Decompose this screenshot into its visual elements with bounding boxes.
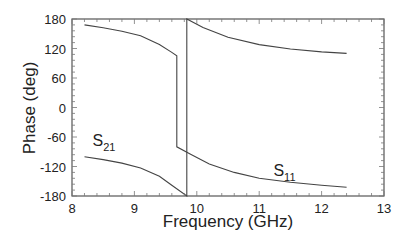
curve-s11 xyxy=(85,25,347,187)
y-tick-label: -60 xyxy=(47,130,66,145)
series-label-s21: S21 xyxy=(92,132,115,153)
y-tick-label: 180 xyxy=(44,12,66,27)
x-tick-label: 13 xyxy=(377,201,391,216)
x-tick-label: 9 xyxy=(131,201,138,216)
axis-ticks: 8910111213180120600-60-120-180 xyxy=(40,12,391,216)
data-curves xyxy=(85,19,347,196)
plot-area xyxy=(72,19,384,196)
phase-chart: 8910111213180120600-60-120-180 Frequency… xyxy=(0,0,410,243)
x-tick-label: 8 xyxy=(68,201,75,216)
y-tick-label: 60 xyxy=(52,71,66,86)
x-axis-title: Frequency (GHz) xyxy=(163,212,293,231)
y-axis-title: Phase (deg) xyxy=(20,62,39,155)
y-tick-label: -120 xyxy=(40,160,66,175)
x-tick-label: 12 xyxy=(314,201,328,216)
plot-frame xyxy=(72,19,384,196)
y-tick-label: 0 xyxy=(59,101,66,116)
series-labels: S21S11 xyxy=(92,132,295,183)
y-tick-label: -180 xyxy=(40,189,66,204)
curve-s21 xyxy=(85,19,347,196)
y-tick-label: 120 xyxy=(44,42,66,57)
